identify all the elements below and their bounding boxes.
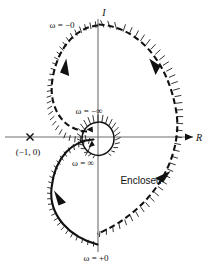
origin-semicircle-arrowhead	[87, 127, 94, 133]
nyquist-plot-figure: I R ω = −0 ω = −∞ ω = ∞ ω = +0 (−1, 0) E…	[0, 0, 207, 271]
omega-minus-zero-label: ω = −0	[49, 20, 75, 30]
axes-group	[5, 19, 193, 252]
real-axis-label: R	[195, 132, 202, 143]
omega-plus-infinity-label: ω = ∞	[72, 158, 94, 168]
omega-plus-zero-label: ω = +0	[83, 253, 109, 263]
real-axis-arrowhead	[185, 134, 193, 141]
outer-arc-arrowhead-top	[149, 58, 160, 75]
lower-left-lobe-group	[47, 138, 98, 247]
outer-right-arc	[98, 25, 178, 235]
lower-left-lobe-arrowhead	[54, 191, 66, 206]
critical-point-label: (−1, 0)	[16, 147, 41, 157]
imaginary-axis-label: I	[101, 7, 106, 18]
origin-semicircle-right	[99, 122, 114, 156]
origin-semicircle-group	[77, 115, 121, 159]
upper-left-lobe-arrowhead	[60, 59, 69, 77]
omega-infinity-leader-arrowhead	[89, 141, 95, 148]
omega-minus-infinity-label: ω = −∞	[76, 106, 103, 116]
enclosed-region-label: Enclosed	[120, 175, 161, 186]
plot-canvas: I R ω = −0 ω = −∞ ω = ∞ ω = +0 (−1, 0) E…	[0, 0, 207, 271]
lower-left-lobe-curve	[51, 140, 97, 245]
